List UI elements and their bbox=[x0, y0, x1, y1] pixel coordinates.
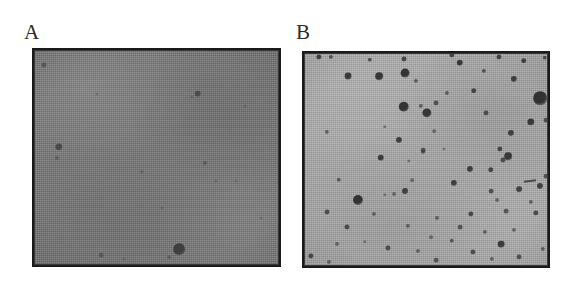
colony bbox=[372, 212, 376, 216]
panel-label-a: A bbox=[24, 22, 40, 43]
colony bbox=[353, 195, 363, 205]
colony bbox=[467, 166, 473, 172]
colony bbox=[484, 111, 489, 116]
colony bbox=[161, 207, 164, 210]
colony bbox=[345, 225, 350, 230]
colony bbox=[416, 249, 420, 253]
colony bbox=[537, 183, 543, 189]
colony bbox=[410, 178, 414, 182]
colony bbox=[386, 246, 391, 251]
colony bbox=[429, 235, 433, 239]
colony bbox=[512, 228, 516, 232]
colony bbox=[432, 129, 436, 133]
colony bbox=[325, 210, 330, 215]
colony bbox=[489, 189, 494, 194]
colony bbox=[96, 93, 99, 96]
plate-image-b bbox=[302, 51, 550, 268]
colony bbox=[516, 186, 522, 192]
colony bbox=[55, 156, 59, 160]
colony bbox=[517, 255, 522, 260]
colony bbox=[508, 130, 514, 136]
figure-root: AB bbox=[0, 0, 573, 286]
colony bbox=[498, 241, 505, 248]
colony bbox=[244, 105, 247, 108]
colony bbox=[435, 216, 439, 220]
colony bbox=[402, 188, 408, 194]
colony bbox=[167, 255, 171, 259]
colony bbox=[99, 253, 104, 258]
colony bbox=[402, 57, 407, 62]
colony bbox=[458, 225, 463, 230]
colony bbox=[401, 69, 410, 78]
plate-surface bbox=[302, 51, 550, 268]
colony bbox=[173, 243, 185, 255]
colony bbox=[443, 148, 446, 151]
colony bbox=[215, 180, 218, 183]
colony bbox=[414, 79, 418, 83]
colony bbox=[504, 209, 509, 214]
colony bbox=[471, 250, 476, 255]
colony bbox=[375, 72, 383, 80]
panel-label-b: B bbox=[296, 22, 311, 43]
plate-surface bbox=[32, 48, 281, 267]
plate-image-a bbox=[32, 48, 281, 267]
colony bbox=[235, 180, 238, 183]
colony bbox=[335, 242, 339, 246]
colony bbox=[495, 198, 499, 202]
colony bbox=[396, 137, 402, 143]
colony bbox=[345, 73, 352, 80]
colony bbox=[533, 91, 547, 105]
colony bbox=[327, 260, 331, 264]
colony bbox=[434, 258, 439, 263]
colony bbox=[421, 150, 425, 154]
colony bbox=[544, 118, 549, 123]
colony bbox=[544, 174, 549, 179]
colony bbox=[445, 91, 449, 95]
colony bbox=[504, 152, 512, 160]
colony bbox=[392, 192, 396, 196]
colony bbox=[260, 217, 263, 220]
colony bbox=[434, 101, 439, 106]
colony bbox=[497, 55, 502, 60]
